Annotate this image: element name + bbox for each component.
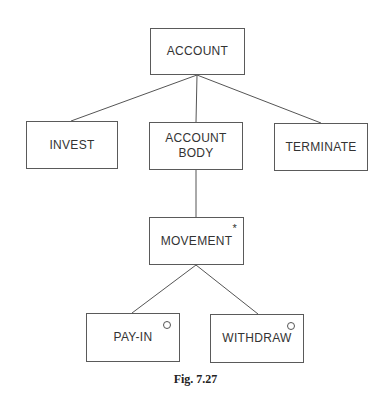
node-account-body: ACCOUNT BODY [149, 122, 243, 170]
selection-marker-icon [163, 321, 171, 329]
node-label-line2: BODY [178, 146, 213, 161]
edge-movement-pay-in [132, 265, 196, 313]
edge-account-account-body [196, 75, 197, 122]
iteration-marker-icon: * [232, 223, 237, 233]
node-withdraw: WITHDRAW [210, 314, 304, 363]
edge-movement-withdraw [196, 265, 258, 314]
node-account: ACCOUNT [150, 28, 245, 75]
node-label: INVEST [49, 138, 94, 153]
edge-account-invest [71, 75, 197, 121]
node-label: ACCOUNT [167, 44, 228, 59]
figure-caption: Fig. 7.27 [0, 372, 391, 387]
node-movement: MOVEMENT * [149, 217, 244, 265]
node-invest: INVEST [26, 121, 118, 169]
node-label: WITHDRAW [222, 331, 291, 346]
selection-marker-icon [287, 322, 295, 330]
node-terminate: TERMINATE [274, 123, 368, 171]
node-label: PAY-IN [114, 330, 153, 345]
node-label-line1: ACCOUNT [165, 131, 226, 146]
edge-account-terminate [197, 75, 321, 123]
node-label: TERMINATE [285, 140, 356, 155]
node-pay-in: PAY-IN [86, 313, 180, 362]
node-label: MOVEMENT [161, 234, 233, 249]
